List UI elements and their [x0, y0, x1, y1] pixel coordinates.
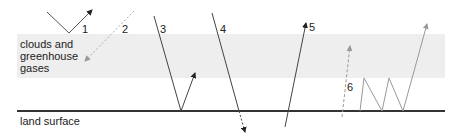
- path-3-arrow: [154, 16, 195, 111]
- path-6-arrows: [342, 24, 427, 117]
- path-4-arrow: [212, 13, 245, 132]
- path-2-arrow: [85, 11, 134, 61]
- path-5-arrow: [285, 23, 306, 127]
- path-1-arrow: [47, 10, 92, 33]
- radiation-paths: [0, 0, 461, 136]
